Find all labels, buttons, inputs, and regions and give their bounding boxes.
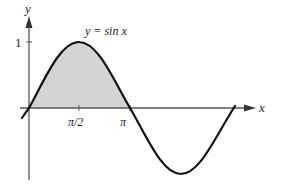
x-tick-label-pi-half: π/2 bbox=[68, 115, 83, 129]
y-axis-arrow-icon bbox=[26, 16, 33, 28]
sine-graph: y x 1 π/2 π y = sin x bbox=[0, 0, 281, 188]
curve-label: y = sin x bbox=[84, 24, 127, 38]
y-axis-label: y bbox=[23, 1, 31, 16]
x-axis-label: x bbox=[258, 100, 265, 115]
y-tick-label-1: 1 bbox=[15, 35, 22, 50]
x-axis-arrow-icon bbox=[244, 105, 256, 112]
x-tick-label-pi: π bbox=[120, 115, 127, 129]
shaded-area bbox=[29, 42, 130, 108]
